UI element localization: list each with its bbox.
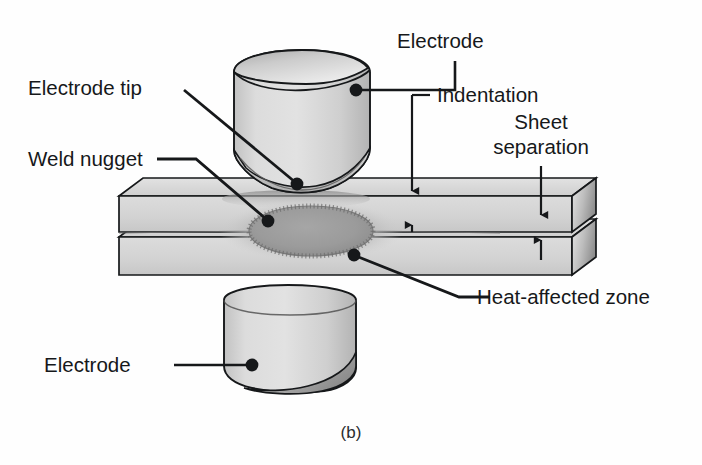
label-electrode-bottom: Electrode	[44, 353, 131, 376]
diagram-canvas: Electrode Electrode tip Weld nugget Inde…	[0, 0, 702, 465]
label-electrode-tip: Electrode tip	[28, 76, 142, 99]
lower-electrode	[224, 285, 356, 394]
upper-electrode	[234, 50, 370, 193]
leader-weld-nugget-dot	[262, 215, 275, 228]
figure-caption: (b)	[341, 423, 362, 442]
label-indentation: Indentation	[437, 83, 538, 106]
label-sheet-separation-line1: Sheet	[514, 110, 568, 133]
leader-haz-dot	[348, 249, 361, 262]
upper-sheet-top-face	[119, 178, 596, 196]
label-heat-affected-zone: Heat-affected zone	[477, 285, 650, 308]
label-electrode-top: Electrode	[397, 29, 484, 52]
weld-nugget	[249, 206, 373, 256]
leader-electrode-bottom-dot	[246, 359, 259, 372]
spot-weld-figure: Electrode Electrode tip Weld nugget Inde…	[0, 0, 702, 465]
leader-electrode-top-dot	[350, 84, 363, 97]
label-weld-nugget: Weld nugget	[28, 147, 143, 170]
leader-electrode-tip-dot	[291, 178, 304, 191]
label-sheet-separation-line2: separation	[493, 135, 589, 158]
